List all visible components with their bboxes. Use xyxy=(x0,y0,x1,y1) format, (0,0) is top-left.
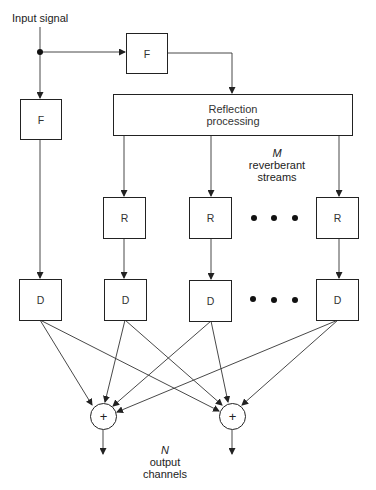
ellipsis-dot xyxy=(251,215,257,221)
reflection-label-line1: Reflection xyxy=(209,103,258,115)
reverb-architecture-diagram: Input signal F F Reflection processing M… xyxy=(0,0,376,490)
connection-lines xyxy=(0,0,376,490)
reverb-block-2: R xyxy=(189,197,232,239)
streams-annotation: M reverberant streams xyxy=(247,147,307,183)
filter-block-reflection: F xyxy=(126,33,168,74)
delay-block-m: D xyxy=(316,279,359,321)
streams-line2: streams xyxy=(247,171,307,183)
plus-icon: + xyxy=(229,410,237,423)
delay-block-2: D xyxy=(104,279,147,321)
junction-dot xyxy=(37,49,43,55)
reverb-label: R xyxy=(334,212,342,224)
ellipsis-dot xyxy=(271,297,277,303)
filter-label: F xyxy=(144,48,150,60)
reverb-label: R xyxy=(121,212,129,224)
plus-icon: + xyxy=(100,410,108,423)
ellipsis-dot xyxy=(250,296,256,302)
delay-block-3: D xyxy=(189,280,232,322)
filter-block-direct: F xyxy=(20,99,62,140)
delay-block-1: D xyxy=(19,279,62,321)
ellipsis-dot xyxy=(271,215,277,221)
streams-symbol: M xyxy=(247,147,307,159)
reverb-block-m: R xyxy=(316,197,359,239)
summer-node-1: + xyxy=(90,403,117,430)
outputs-line2: channels xyxy=(137,468,193,480)
input-signal-label: Input signal xyxy=(12,12,68,24)
streams-line1: reverberant xyxy=(247,159,307,171)
outputs-symbol: N xyxy=(137,444,193,456)
delay-label: D xyxy=(334,294,342,306)
delay-label: D xyxy=(122,294,130,306)
outputs-line1: output xyxy=(137,456,193,468)
reflection-processing-block: Reflection processing xyxy=(113,94,353,136)
summer-node-n: + xyxy=(219,403,246,430)
reverb-label: R xyxy=(207,212,215,224)
delay-label: D xyxy=(37,294,45,306)
ellipsis-dot xyxy=(292,297,298,303)
reflection-label-line2: processing xyxy=(206,115,259,127)
outputs-annotation: N output channels xyxy=(137,444,193,480)
ellipsis-dot xyxy=(292,215,298,221)
reverb-block-1: R xyxy=(103,197,146,239)
filter-label: F xyxy=(38,114,44,126)
delay-label: D xyxy=(207,295,215,307)
